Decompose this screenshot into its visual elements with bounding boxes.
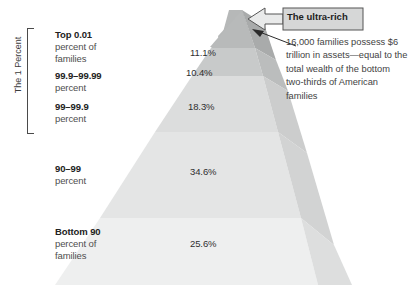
tier-sub-line2: families [55,53,155,65]
tier-head: 90–99 [55,163,155,175]
tier-label-99-999: 99–99.9 percent [55,101,155,125]
tier-sub-line1: percent of [55,41,155,53]
tier-head: Top 0.01 [55,29,155,41]
tier-head: 99–99.9 [55,101,155,113]
pct-label-tier-2: 10.4% [186,67,212,78]
tier-head: 99.9–99.99 [55,70,155,82]
tier-label-bottom-90: Bottom 90 percent of families [55,226,155,263]
tier-label-90-99: 90–99 percent [55,163,155,187]
pct-label-tier-5: 25.6% [190,238,216,249]
tier-sub-line1: percent [55,82,155,94]
pyramid-left-face-3 [155,76,278,132]
tier-sub-line2: families [55,250,155,262]
infographic-canvas: 11.1% 10.4% 18.3% 34.6% 25.6% The 1 Perc… [0,0,413,285]
annotation-text: 16,000 families possess $6 trillion in a… [286,36,408,103]
callout-label: The ultra-rich [287,11,348,22]
bracket-line [27,28,34,134]
tier-label-top-001: Top 0.01 percent of families [55,29,155,66]
pct-label-tier-4: 34.6% [190,166,216,177]
pct-label-tier-3: 18.3% [188,101,214,112]
tier-sub-line1: percent of [55,238,155,250]
bracket-label: The 1 Percent [13,25,23,105]
leader-arrowhead-icon [252,29,264,37]
tier-label-999-9999: 99.9–99.99 percent [55,70,155,94]
tier-sub-line1: percent [55,113,155,125]
tier-sub-line1: percent [55,175,155,187]
tier-head: Bottom 90 [55,226,155,238]
pct-label-tier-1: 11.1% [190,47,216,58]
